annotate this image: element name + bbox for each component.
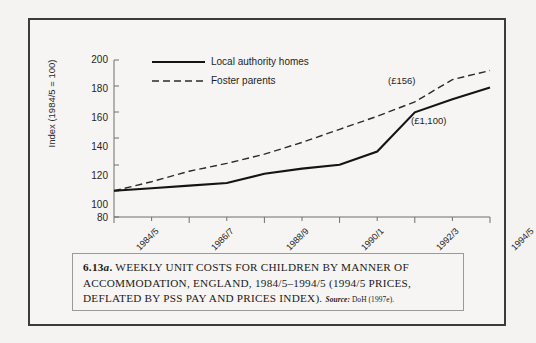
chart-plot-area: Index (1984/5 = 100) 200 180 160 140 120… bbox=[30, 20, 508, 248]
annotation-local-authority-homes-value: (£1,100) bbox=[411, 115, 446, 126]
x-tick-label-1994-5: 1994/5 bbox=[509, 226, 536, 253]
series-line-local-authority-homes bbox=[114, 88, 490, 191]
chart-canvas bbox=[30, 20, 508, 248]
caption-number: 6.13a. bbox=[83, 261, 112, 273]
caption-source-value: DoH (1997e). bbox=[352, 295, 394, 304]
series-line-foster-parents bbox=[114, 71, 490, 191]
caption-source-label: Source: bbox=[325, 295, 350, 304]
figure-frame: Index (1984/5 = 100) 200 180 160 140 120… bbox=[28, 18, 506, 326]
annotation-foster-parents-value: (£156) bbox=[388, 75, 415, 86]
figure-caption-box: 6.13a. WEEKLY UNIT COSTS FOR CHILDREN BY… bbox=[72, 253, 464, 311]
figure-caption-text: 6.13a. WEEKLY UNIT COSTS FOR CHILDREN BY… bbox=[83, 260, 455, 308]
x-tick-marks bbox=[114, 217, 490, 223]
caption-source: Source: DoH (1997e). bbox=[325, 295, 394, 304]
legend-label-foster-parents: Foster parents bbox=[211, 75, 275, 86]
y-tick-marks bbox=[114, 60, 119, 217]
legend-label-local-authority-homes: Local authority homes bbox=[211, 56, 309, 67]
